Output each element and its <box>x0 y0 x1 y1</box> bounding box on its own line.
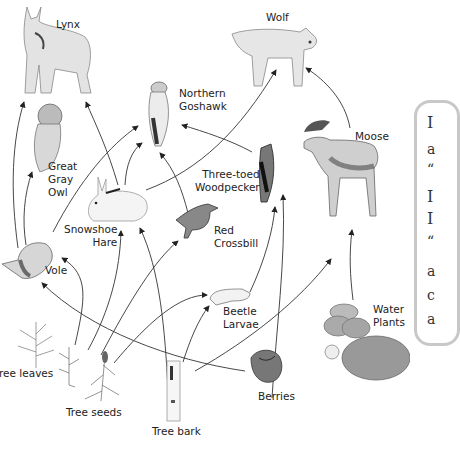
label-northern-goshawk-line1: Northern <box>179 87 227 100</box>
side-panel-glyph: c <box>427 287 435 303</box>
label-moose: Moose <box>355 130 389 143</box>
label-water-plants-line1: Water <box>373 303 405 316</box>
beetle-larvae-illustration <box>208 285 252 307</box>
label-three-toed-woodpecker: Three-toed Woodpecker <box>195 168 260 194</box>
side-panel-glyph: “ <box>427 233 434 249</box>
label-larvae-line2: Larvae <box>223 318 259 331</box>
berries-illustration <box>247 348 285 384</box>
label-woodpecker-line2: Woodpecker <box>195 181 260 194</box>
label-owl-line2: Gray <box>48 173 77 186</box>
label-owl-line3: Owl <box>48 186 77 199</box>
tree-bark-illustration <box>166 360 182 422</box>
label-great-gray-owl: Great Gray Owl <box>48 160 77 199</box>
side-panel-glyph: a <box>427 263 435 279</box>
wolf-illustration <box>228 24 320 88</box>
label-crossbill-line2: Crossbill <box>214 237 258 250</box>
label-larvae-line1: Beetle <box>223 305 259 318</box>
side-panel-glyph: I <box>427 209 433 228</box>
side-info-panel: I a “ I I “ a c a <box>414 100 460 346</box>
side-panel-glyph: a <box>427 311 435 327</box>
label-vole: Vole <box>45 264 67 277</box>
label-tree-seeds: Tree seeds <box>66 406 122 419</box>
label-crossbill-line1: Red <box>214 224 258 237</box>
side-panel-glyph: I <box>427 113 433 132</box>
label-snowshoe-hare: Snowshoe Hare <box>64 223 117 249</box>
side-panel-glyph: I <box>427 187 433 206</box>
label-water-plants-line2: Plants <box>373 316 405 329</box>
label-woodpecker-line1: Three-toed <box>195 168 260 181</box>
label-northern-goshawk-line2: Goshawk <box>179 100 227 113</box>
label-tree-leaves: ree leaves <box>0 367 53 380</box>
tree-seeds-illustration <box>55 345 135 405</box>
label-berries: Berries <box>258 390 295 403</box>
label-wolf: Wolf <box>266 11 289 24</box>
label-red-crossbill: Red Crossbill <box>214 224 258 250</box>
lynx-illustration <box>15 5 95 95</box>
side-panel-glyph: a <box>427 141 435 157</box>
label-hare-line2: Hare <box>64 236 117 249</box>
side-panel-glyph: “ <box>427 161 434 177</box>
label-hare-line1: Snowshoe <box>64 223 117 236</box>
label-owl-line1: Great <box>48 160 77 173</box>
label-water-plants: Water Plants <box>373 303 405 329</box>
label-tree-bark: Tree bark <box>152 425 201 438</box>
tree-leaves-illustration <box>16 320 56 370</box>
label-lynx: Lynx <box>56 18 80 31</box>
woodpecker-illustration <box>257 142 277 204</box>
goshawk-illustration <box>143 78 173 148</box>
label-northern-goshawk: Northern Goshawk <box>179 87 227 113</box>
label-beetle-larvae: Beetle Larvae <box>223 305 259 331</box>
snowshoe-hare-illustration <box>84 175 150 223</box>
